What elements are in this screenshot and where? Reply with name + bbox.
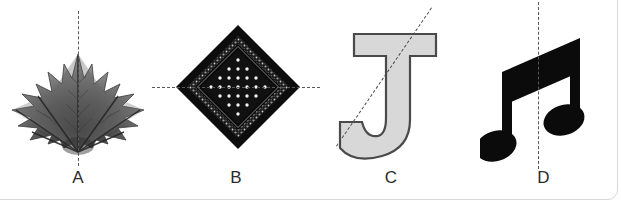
beamed-eighth-notes-image: [480, 28, 606, 168]
figure-caption-c: C: [316, 168, 466, 188]
figure-c: C: [316, 0, 466, 208]
figure-panel: A: [0, 0, 621, 208]
symmetry-line-a: [78, 11, 79, 166]
figure-b: B: [156, 0, 316, 208]
figure-a: A: [0, 0, 156, 208]
figure-d: D: [466, 0, 621, 208]
figure-caption-a: A: [0, 168, 156, 188]
figure-caption-d: D: [466, 168, 621, 188]
symmetry-line-b: [152, 87, 320, 88]
letter-j-shape: [332, 28, 452, 166]
figure-caption-b: B: [156, 168, 316, 188]
symmetry-line-d: [538, 2, 539, 169]
